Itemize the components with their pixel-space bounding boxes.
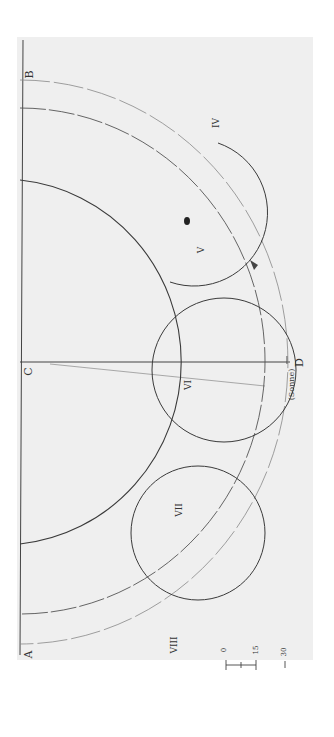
baseline-AB: [20, 40, 23, 655]
geometric-diagram: [0, 0, 334, 737]
circle-VII: [131, 466, 265, 600]
label-IV: IV: [211, 118, 221, 128]
oblique-line: [50, 364, 265, 386]
circle-VI: [152, 298, 296, 442]
label-B: B: [23, 70, 36, 78]
label-VIII: VIII: [169, 636, 179, 653]
scale-bar: [226, 660, 285, 670]
label-annotation-D: (Sonne): [287, 369, 296, 401]
ink-spot: [184, 217, 190, 225]
label-VI: VI: [183, 380, 193, 390]
label-A: A: [22, 651, 35, 659]
scale-tick-30: 30: [280, 648, 288, 657]
scale-tick-0: 0: [220, 648, 228, 652]
orbit-middle: [20, 108, 265, 614]
scale-tick-15: 15: [252, 646, 260, 655]
label-C: C: [22, 367, 35, 375]
label-VII: VII: [174, 503, 184, 517]
ink-smudge: [250, 260, 258, 270]
label-D: D: [293, 358, 306, 367]
label-V: V: [196, 247, 206, 254]
